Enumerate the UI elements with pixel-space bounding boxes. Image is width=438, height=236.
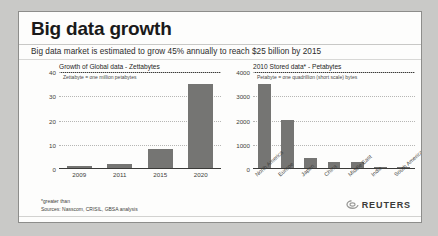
infographic-page: Big data growth Big data market is estim… <box>0 0 438 236</box>
x-axis-tick-label: 2011 <box>113 171 126 178</box>
title-divider <box>19 44 421 45</box>
bar-column <box>140 72 181 168</box>
x-axis-tick: North America <box>253 173 276 203</box>
bar-column <box>100 72 141 168</box>
plot-area: 010203040 <box>59 72 221 169</box>
bar-column <box>392 72 415 168</box>
y-axis-tick-label: 1000 <box>236 141 250 148</box>
x-axis-tick: China <box>322 173 345 203</box>
bar-column <box>299 72 322 168</box>
x-axis-tick: 2009 <box>59 163 100 181</box>
y-axis-tick-label: 40 <box>49 69 56 76</box>
bar <box>281 120 294 168</box>
y-axis-tick-label: 0 <box>53 166 56 173</box>
footnote-sources: Sources: Nasscom, CRISIL, GBSA analysis <box>41 206 138 212</box>
footer-divider <box>19 216 421 217</box>
y-axis-tick-label: 10 <box>49 141 56 148</box>
x-axis-tick-label: 2009 <box>72 171 86 178</box>
chart-title: 2010 Stored data* - Petabytes <box>253 63 341 70</box>
x-axis-labels: 2009201120152020 <box>59 163 221 181</box>
y-axis-tick-label: 2000 <box>236 117 250 124</box>
y-axis-tick-label: 20 <box>49 117 56 124</box>
footnote-star: *greater than <box>41 198 70 204</box>
reuters-wordmark: REUTERS <box>362 200 411 210</box>
x-axis-tick: 2015 <box>140 163 181 181</box>
bar-series <box>59 72 221 168</box>
chart-panel-global-data-growth: Growth of Global data - Zettabytes Zetta… <box>29 62 225 207</box>
page-title: Big data growth <box>31 18 172 40</box>
bar-column <box>346 72 369 168</box>
subtitle-divider <box>19 59 421 60</box>
bar-column <box>322 72 345 168</box>
bar-column <box>253 72 276 168</box>
x-axis-tick: 2011 <box>100 163 141 181</box>
x-axis-tick: Europe <box>276 173 299 203</box>
bar <box>188 84 213 168</box>
x-axis-tick-label: 2015 <box>153 171 167 178</box>
reuters-orbit-icon <box>346 196 359 214</box>
y-axis-tick-label: 3000 <box>236 93 250 100</box>
chart-title: Growth of Global data - Zettabytes <box>59 63 160 70</box>
y-axis-tick-label: 0 <box>247 166 250 173</box>
bar-column <box>181 72 222 168</box>
bar <box>258 84 271 168</box>
chart-panel-stored-data-2010: 2010 Stored data* - Petabytes Petabyte =… <box>223 62 419 207</box>
x-axis-tick: 2020 <box>181 163 222 181</box>
y-axis-tick-label: 30 <box>49 93 56 100</box>
bar-column <box>369 72 392 168</box>
bar-column <box>59 72 100 168</box>
x-axis-tick: Japan <box>299 173 322 203</box>
reuters-logo: REUTERS <box>346 196 411 214</box>
page-subtitle: Big data market is estimated to grow 45%… <box>31 47 321 56</box>
y-axis-tick-label: 4000 <box>236 69 250 76</box>
infographic-card: Big data growth Big data market is estim… <box>18 11 422 223</box>
x-axis-tick-label: 2020 <box>194 171 208 178</box>
